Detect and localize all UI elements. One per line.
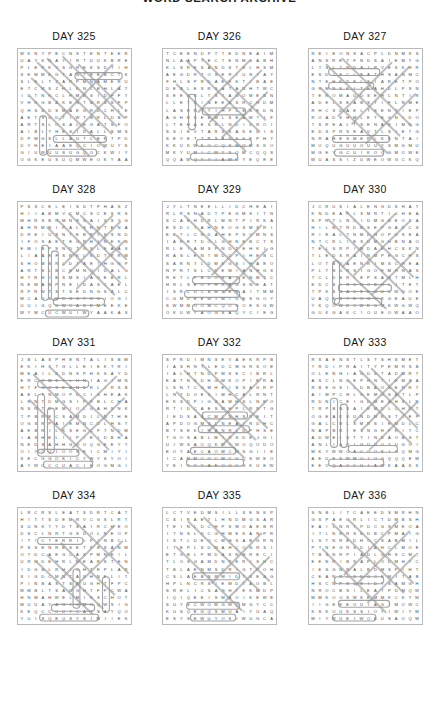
letter-cell: S — [220, 128, 227, 135]
letter-cell: N — [164, 267, 171, 274]
letter-cell: E — [67, 356, 74, 363]
puzzle-day-334[interactable]: DAY 334LRCRSLEATSDRTCATHITTSDEMRVCGSLRTS… — [12, 489, 136, 625]
puzzle-day-332[interactable]: DAY 332SPRDIMNSEVAEKRPBIASHNTLEDCMGRSOEI… — [158, 336, 282, 472]
letter-cell: E — [316, 456, 323, 463]
letter-cell: I — [178, 406, 185, 413]
letter-cell: G — [358, 399, 365, 406]
puzzle-day-330[interactable]: DAY 330JCRUSIALENGDSHATKNDEAPLSMRTICHEAS… — [303, 183, 427, 319]
letter-cell: W — [88, 456, 95, 463]
word-search-board[interactable]: REIEONSACPLDNMKSANSRETFNDSAIEMTGLTSLTNDA… — [308, 48, 423, 166]
letter-cell: K — [316, 449, 323, 456]
letter-cell: A — [310, 392, 317, 399]
letter-cell: Y — [19, 616, 26, 623]
word-search-board[interactable]: RSAENSTLSTSHSMETTRDIPRAITYPEMRSBOLENHIAG… — [308, 354, 423, 472]
letter-cell: U — [123, 79, 130, 86]
letter-cell: I — [261, 50, 268, 57]
letter-cell: P — [268, 509, 275, 516]
letter-cell: Q — [192, 157, 199, 164]
letter-cell: E — [102, 274, 109, 281]
letter-cell: S — [337, 253, 344, 260]
letter-cell: E — [316, 50, 323, 57]
letter-cell: M — [407, 449, 414, 456]
letter-cell: N — [310, 239, 317, 246]
letter-cell: O — [365, 538, 372, 545]
letter-cell: C — [199, 289, 206, 296]
letter-cell: P — [365, 274, 372, 281]
letter-cell: I — [330, 363, 337, 370]
puzzle-day-328[interactable]: DAY 328PSSCELEISDTPHASZHIIABMVCMCSCESRSM… — [12, 183, 136, 319]
word-search-board[interactable]: TCEENDPTTEDNEAIMNLAAPTECTENMSABHKLSRESAN… — [162, 48, 277, 166]
letter-cell: Y — [109, 157, 116, 164]
letter-cell: A — [123, 399, 130, 406]
letter-cell: E — [337, 516, 344, 523]
letter-cell: I — [116, 552, 123, 559]
letter-cell: S — [164, 587, 171, 594]
letter-cell: S — [109, 121, 116, 128]
letter-cell: T — [123, 86, 130, 93]
letter-cell: S — [171, 538, 178, 545]
letter-cell: T — [25, 552, 32, 559]
letter-cell: G — [88, 121, 95, 128]
letter-cell: S — [19, 79, 26, 86]
letter-cell: T — [365, 363, 372, 370]
letter-cell: C — [337, 399, 344, 406]
puzzle-day-325[interactable]: DAY 325WKNYPECNSTENTEERUAYKNAYIRTUUKBREP… — [12, 30, 136, 166]
puzzle-day-326[interactable]: DAY 326TCEENDPTTEDNEAIMNLAAPTECTENMSABHK… — [158, 30, 282, 166]
letter-cell: T — [344, 57, 351, 64]
letter-cell: T — [123, 516, 130, 523]
letter-cell: H — [220, 232, 227, 239]
letter-cell: Y — [268, 296, 275, 303]
letter-cell: O — [372, 150, 379, 157]
word-search-board[interactable]: JBLASPHENTALISBMEKIHTTGLLEIEKTRIMEAILEDN… — [17, 354, 132, 472]
letter-cell: T — [102, 580, 109, 587]
letter-cell: R — [67, 79, 74, 86]
letter-cell: S — [213, 566, 220, 573]
puzzle-day-331[interactable]: DAY 331JBLASPHENTALISBMEKIHTTGLLEIEKTRIM… — [12, 336, 136, 472]
word-search-board[interactable]: LRCRSLEATSDRTCATHITTSDEMRVCGSLRTSUNKTYDT… — [17, 507, 132, 625]
letter-cell: H — [19, 516, 26, 523]
letter-cell: S — [344, 413, 351, 420]
puzzle-day-336[interactable]: DAY 336SNBLITCAEEDSMRHNGSPAEORLICTDMBSHE… — [303, 489, 427, 625]
word-search-board[interactable]: WKNYPECNSTENTEERUAYKNAYIRTUUKBREPLEPKVSG… — [17, 48, 132, 166]
letter-cell: T — [372, 114, 379, 121]
letter-cell: A — [95, 310, 102, 317]
puzzle-day-327[interactable]: DAY 327REIEONSACPLDNMKSANSRETFNDSAIEMTGL… — [303, 30, 427, 166]
letter-cell: R — [123, 566, 130, 573]
letter-cell: I — [240, 253, 247, 260]
letter-cell: E — [192, 296, 199, 303]
letter-cell: I — [39, 232, 46, 239]
letter-cell: K — [261, 217, 268, 224]
letter-cell: S — [351, 559, 358, 566]
letter-cell: H — [386, 356, 393, 363]
word-search-board[interactable]: PSSCELEISDTPHASZHIIABMVCMCSCESRSMHRSBRMN… — [17, 201, 132, 319]
word-search-board[interactable]: JCRUSIALENGDSHATKNDEAPLSMRTICHEASPRTLNCI… — [308, 201, 423, 319]
letter-cell: H — [213, 281, 220, 288]
letter-cell: I — [213, 392, 220, 399]
word-search-board[interactable]: JYLTNEELLIDCHEAIRLRSNADTPEGMSITNSCAEHDRL… — [162, 201, 277, 319]
word-search-board[interactable]: SPRDIMNSEVAEKRPBIASHNTLEDCMGRSOEIALHTNDP… — [162, 354, 277, 472]
letter-cell: I — [379, 100, 386, 107]
letter-cell: N — [213, 64, 220, 71]
puzzle-day-333[interactable]: DAY 333RSAENSTLSTSHSMETTRDIPRAITYPEMRSBO… — [303, 336, 427, 472]
puzzle-day-329[interactable]: DAY 329JYLTNEELLIDCHEAIRLRSNADTPEGMSITNS… — [158, 183, 282, 319]
letter-cell: A — [247, 580, 254, 587]
letter-cell: M — [226, 399, 233, 406]
letter-cell: S — [206, 580, 213, 587]
letter-cell: U — [261, 442, 268, 449]
letter-cell: D — [206, 545, 213, 552]
puzzle-day-335[interactable]: DAY 335LCTVEDMSILLSENKPCSIRAETLHNDMGSART… — [158, 489, 282, 625]
letter-cell: I — [74, 538, 81, 545]
letter-cell: I — [372, 260, 379, 267]
letter-cell: A — [379, 57, 386, 64]
word-search-board[interactable]: SNBLITCAEEDSMRHNGSPAEORLICTDMBSHEAILNRTP… — [308, 507, 423, 625]
letter-cell: A — [261, 609, 268, 616]
letter-cell: N — [226, 413, 233, 420]
word-search-board[interactable]: LCTVEDMSILLSENKPCSIRAETLHNDMGSARTEINLDCH… — [162, 507, 277, 625]
letter-cell: M — [240, 516, 247, 523]
letter-cell: C — [372, 523, 379, 530]
letter-cell: S — [344, 595, 351, 602]
letter-cell: A — [407, 136, 414, 143]
letter-cell: K — [240, 128, 247, 135]
letter-cell: O — [178, 559, 185, 566]
letter-cell: T — [206, 93, 213, 100]
